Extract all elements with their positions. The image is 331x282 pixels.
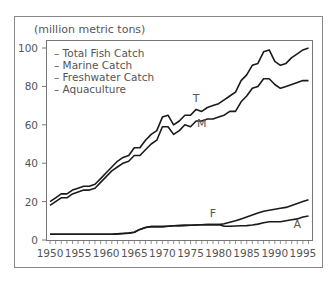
y-tick-label: 60	[25, 119, 38, 131]
y-axis: 020406080100	[18, 42, 47, 246]
x-tick-label: 1955	[65, 247, 92, 259]
x-tick-label: 1950	[37, 247, 64, 259]
x-tick-label: 1975	[177, 247, 204, 259]
x-tick-label: 1960	[93, 247, 120, 259]
series-tag-F: F	[210, 207, 216, 220]
y-tick-label: 0	[31, 234, 38, 246]
legend-freshwater: – Freshwater Catch	[54, 71, 154, 83]
series-annotations: TMFA	[192, 92, 302, 232]
legend-marine: – Marine Catch	[54, 59, 132, 71]
y-tick-label: 100	[18, 42, 38, 54]
series-line-F	[50, 200, 309, 235]
legend-aquaculture: – Aquaculture	[54, 83, 126, 95]
x-tick-label: 1995	[290, 247, 317, 259]
legend-total: – Total Fish Catch	[54, 47, 144, 59]
series-tag-T: T	[192, 92, 200, 105]
y-tick-label: 40	[25, 157, 38, 169]
series-tag-M: M	[197, 117, 207, 130]
x-axis: 1950195519601965197019751980198519901995	[37, 240, 317, 259]
x-tick-label: 1980	[205, 247, 232, 259]
y-unit-label: (million metric tons)	[34, 23, 145, 36]
y-tick-label: 20	[25, 196, 38, 208]
x-tick-label: 1985	[233, 247, 260, 259]
x-tick-label: 1965	[121, 247, 148, 259]
legend: – Total Fish Catch – Marine Catch – Fres…	[54, 47, 154, 95]
fish-catch-chart: (million metric tons) 020406080100 19501…	[0, 0, 331, 282]
x-tick-label: 1970	[149, 247, 176, 259]
x-tick-label: 1990	[261, 247, 288, 259]
series-tag-A: A	[294, 218, 302, 231]
y-tick-label: 80	[25, 80, 38, 92]
series-line-A	[50, 216, 309, 234]
